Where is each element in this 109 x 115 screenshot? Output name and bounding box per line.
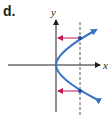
- x-axis-label: x: [102, 59, 108, 71]
- y-axis-label: y: [50, 6, 56, 18]
- upper-intersection-point: [78, 36, 82, 40]
- parabola-curve: [56, 65, 96, 99]
- lower-intersection-point: [78, 89, 82, 93]
- graph: x y: [0, 0, 109, 115]
- parabola-curve-upper: [56, 30, 96, 65]
